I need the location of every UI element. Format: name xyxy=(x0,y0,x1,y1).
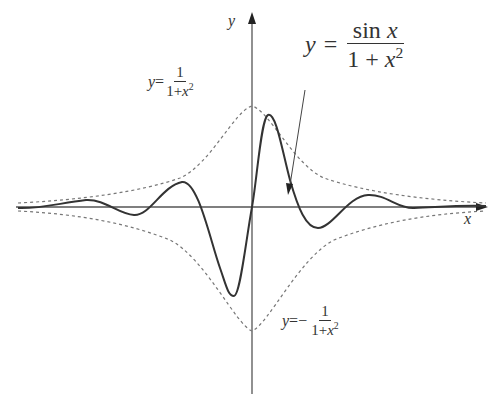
main-equation-label: y = sin x 1 + x2 xyxy=(305,17,405,73)
lower-den-var: x xyxy=(327,322,334,338)
main-eq-fraction: sin x 1 + x2 xyxy=(345,17,405,73)
annotation-arrow-line xyxy=(290,90,305,185)
lower-lhs: y xyxy=(282,312,289,330)
lower-den-one: 1+ xyxy=(311,322,327,338)
upper-den: 1+x2 xyxy=(164,82,196,100)
plot-canvas xyxy=(0,0,494,396)
lower-den-exp: 2 xyxy=(334,320,339,331)
lower-envelope-label: y =− 1 1+x2 xyxy=(282,303,341,338)
x-axis-label: x xyxy=(464,210,471,228)
lower-fraction: 1 1+x2 xyxy=(309,303,341,338)
upper-eq: = xyxy=(155,73,164,91)
y-axis-label: y xyxy=(228,12,235,30)
upper-den-var: x xyxy=(182,83,189,99)
upper-envelope-label: y = 1 1+x2 xyxy=(148,64,196,99)
den-exp: 2 xyxy=(395,44,403,61)
den-var: x xyxy=(385,46,396,72)
upper-fraction: 1 1+x2 xyxy=(164,64,196,99)
main-eq-denominator: 1 + x2 xyxy=(345,44,405,72)
upper-num: 1 xyxy=(174,64,186,82)
upper-den-exp: 2 xyxy=(189,81,194,92)
lower-den: 1+x2 xyxy=(309,321,341,339)
sin-fn: sin xyxy=(353,17,381,43)
lower-num: 1 xyxy=(319,303,331,321)
y-axis-arrow-icon xyxy=(248,12,256,24)
main-eq-numerator: sin x xyxy=(347,17,404,44)
lower-eq: =− xyxy=(289,312,307,330)
upper-den-one: 1+ xyxy=(166,83,182,99)
main-eq-equals: = xyxy=(324,31,338,58)
num-var: x xyxy=(387,17,398,43)
upper-lhs: y xyxy=(148,73,155,91)
main-eq-lhs: y xyxy=(305,31,316,58)
x-axis-arrow-icon xyxy=(476,203,488,211)
den-one: 1 + xyxy=(347,46,385,72)
